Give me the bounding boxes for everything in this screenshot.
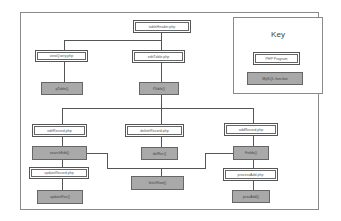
connector-line [161, 168, 162, 176]
connector-line [87, 153, 108, 154]
connector-line [253, 108, 254, 123]
connector-line [62, 179, 63, 190]
node-label: addRecord.php [226, 125, 276, 134]
node-delrec-function: delRec() [141, 147, 178, 160]
node-fields-function: Fields() [233, 146, 269, 160]
node-ftable-function: fTable() [139, 82, 179, 95]
node-delete-record-php: deleteRecord.php [125, 124, 184, 137]
connector-line [107, 153, 108, 168]
connector-line [62, 108, 63, 124]
node-update-rec-function: updateRec() [37, 190, 83, 204]
node-label: viewQuery.php [37, 52, 86, 60]
legend-php-program: PHP Program [253, 52, 300, 65]
legend-label: PHP Program [255, 54, 298, 63]
connector-line [62, 160, 63, 167]
node-label: deleteRecord.php [127, 126, 182, 135]
node-add-record-php: addRecord.php [224, 123, 278, 136]
node-edit-record-php: editRecord.php [32, 124, 87, 137]
node-update-record-php: updateRecord.php [29, 167, 89, 179]
connector-line [161, 40, 162, 50]
node-label: tableHeader.php [135, 22, 189, 31]
node-qtable-function: qTable() [41, 82, 83, 95]
connector-line [62, 108, 254, 109]
node-table-header-php: tableHeader.php [133, 20, 191, 33]
node-process-add-php: processAdd.php [223, 168, 278, 181]
node-proc-add-function: procAdd() [232, 190, 270, 203]
connector-line [64, 40, 162, 41]
connector-line [161, 137, 162, 147]
connector-line [64, 62, 65, 82]
connector-line [205, 153, 206, 169]
node-search-edit-function: searchEdit() [32, 146, 87, 160]
legend-key: Key PHP Program MySQL function [233, 17, 323, 94]
connector-line [161, 95, 162, 124]
connector-line [161, 62, 162, 82]
legend-title: Key [234, 30, 322, 39]
connector-line [107, 168, 206, 169]
node-edit-table-php: editTable.php [132, 50, 185, 63]
node-label: editRecord.php [34, 126, 85, 135]
node-label: processAdd.php [225, 170, 276, 179]
connector-line [253, 159, 254, 168]
node-view-query-php: viewQuery.php [35, 50, 88, 62]
node-label: updateRecord.php [31, 169, 87, 177]
legend-mysql-function: MySQL function [247, 72, 303, 85]
connector-line [253, 181, 254, 190]
connector-line [205, 153, 233, 154]
node-fetch-row-function: fetchRow() [131, 176, 184, 190]
node-label: editTable.php [134, 52, 183, 61]
connector-line [64, 40, 65, 50]
